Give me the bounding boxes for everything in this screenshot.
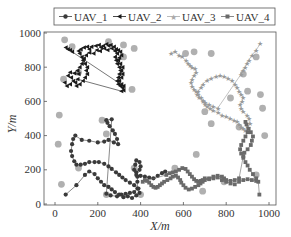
svg-text:★: ★ [257, 40, 263, 48]
y-axis-ticks: 02004006008001000 [19, 27, 47, 210]
svg-text:★: ★ [215, 105, 221, 113]
target-point [61, 36, 68, 43]
x-tick-label: 1000 [258, 207, 281, 219]
series-uav-3: ★★★★★★★★★★★★★★★★★★★★★★★★★★★★★★★★★★★★★★★★… [168, 40, 264, 135]
y-tick-label: 0 [36, 198, 42, 210]
target-point [261, 132, 268, 139]
legend-item-uav-3: ★ UAV_3 [167, 11, 216, 23]
x-tick-label: 200 [90, 207, 107, 219]
x-axis-title: X/m [149, 219, 170, 233]
y-tick-label: 1000 [19, 27, 42, 39]
y-tick-label: 800 [25, 61, 42, 73]
target-point [208, 120, 215, 127]
circle-marker-icon [63, 14, 67, 18]
target-point [208, 50, 215, 57]
target-point [199, 188, 206, 195]
square-marker-icon [226, 15, 230, 19]
trajectory-series: ★★★★★★★★★★★★★★★★★★★★★★★★★★★★★★★★★★★★★★★★… [62, 40, 263, 200]
star-marker-icon: ★ [170, 13, 177, 22]
target-point [58, 181, 65, 188]
plot-frame [44, 32, 276, 205]
legend-label-uav-2: UAV_2 [128, 11, 161, 23]
target-point [131, 45, 138, 52]
target-point [103, 130, 110, 137]
x-tick-label: 800 [218, 207, 235, 219]
x-axis-ticks: 02004006008001000 [52, 202, 280, 219]
target-point [193, 151, 200, 158]
target-point [129, 86, 136, 93]
y-tick-label: 400 [25, 129, 42, 141]
y-tick-label: 600 [25, 95, 42, 107]
x-tick-label: 400 [132, 207, 149, 219]
y-tick-label: 200 [25, 163, 42, 175]
target-point [56, 112, 63, 119]
legend-label-uav-4: UAV_4 [236, 11, 270, 23]
uav-trajectory-chart: ★★★★★★★★★★★★★★★★★★★★★★★★★★★★★★★★★★★★★★★★… [0, 0, 291, 237]
legend: UAV_1 UAV_2 ★ UAV_3 UAV_4 [54, 8, 275, 25]
target-point [55, 141, 62, 148]
target-point [120, 42, 127, 49]
x-tick-label: 600 [175, 207, 192, 219]
legend-label-uav-1: UAV_1 [74, 11, 107, 23]
svg-text:★: ★ [253, 47, 259, 55]
series-uav-2 [62, 42, 125, 93]
target-point [259, 105, 266, 112]
target-point [227, 95, 234, 102]
x-tick-label: 0 [52, 207, 58, 219]
legend-label-uav-3: UAV_3 [182, 11, 216, 23]
target-point [191, 48, 198, 55]
target-point [257, 91, 264, 98]
y-axis-title: Y/m [5, 114, 19, 133]
